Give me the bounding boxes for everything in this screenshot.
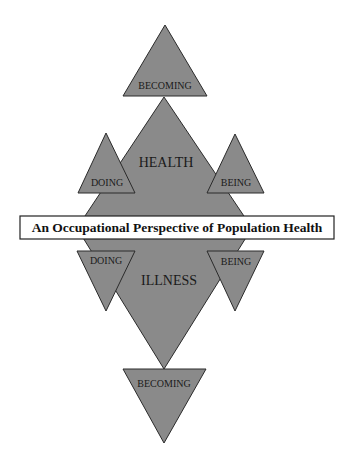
being-upper-label: BEING: [221, 177, 252, 188]
occupational-health-diagram: BECOMING HEALTH DOING BEING DOING BEING …: [0, 0, 355, 464]
doing-lower-label: DOING: [90, 255, 122, 266]
becoming-bottom-label: BECOMING: [137, 378, 190, 389]
becoming-top-label: BECOMING: [138, 80, 191, 91]
diagram-title: An Occupational Perspective of Populatio…: [32, 220, 323, 235]
health-label: HEALTH: [139, 155, 194, 170]
doing-upper-label: DOING: [91, 177, 123, 188]
illness-label: ILLNESS: [141, 273, 197, 288]
being-lower-label: BEING: [221, 256, 252, 267]
